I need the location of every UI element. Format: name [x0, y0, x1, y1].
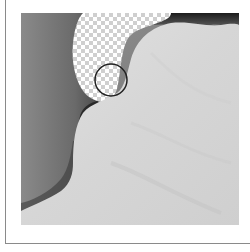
photo-artwork	[21, 13, 239, 225]
frame-bottom-border	[5, 243, 250, 244]
image-frame	[0, 0, 250, 252]
frame-left-border	[5, 0, 6, 244]
photo-canvas[interactable]	[21, 13, 239, 225]
